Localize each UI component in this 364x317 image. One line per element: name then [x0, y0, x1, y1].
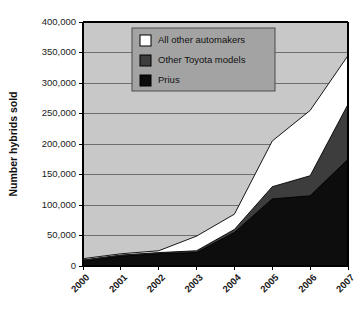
y-tick-label: 350,000	[42, 46, 76, 57]
y-tick-label: 200,000	[42, 138, 76, 149]
y-tick-labels: 050,000100,000150,000200,000250,000300,0…	[42, 16, 76, 271]
y-tick-label: 150,000	[42, 168, 76, 179]
legend-label-2: Prius	[158, 74, 180, 85]
legend-swatch-0	[140, 35, 151, 46]
y-tick-label: 250,000	[42, 107, 76, 118]
legend-swatch-1	[140, 55, 151, 66]
y-tick-label: 400,000	[42, 16, 76, 27]
legend-swatch-2	[140, 75, 151, 86]
y-axis-title: Number hybrids sold	[7, 91, 19, 196]
stacked-area-chart: 050,000100,000150,000200,000250,000300,0…	[0, 0, 364, 317]
chart-figure: 050,000100,000150,000200,000250,000300,0…	[0, 0, 364, 317]
legend-label-1: Other Toyota models	[158, 54, 246, 65]
y-tick-label: 100,000	[42, 199, 76, 210]
y-tick-label: 300,000	[42, 77, 76, 88]
y-tick-label: 0	[71, 260, 76, 271]
legend-label-0: All other automakers	[158, 34, 245, 45]
chart-legend: All other automakersOther Toyota modelsP…	[132, 28, 275, 91]
y-tick-label: 50,000	[47, 229, 76, 240]
